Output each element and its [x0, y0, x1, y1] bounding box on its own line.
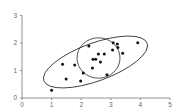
data-point — [82, 71, 85, 74]
x-tick-label: 2 — [79, 101, 83, 108]
data-point — [73, 64, 76, 67]
large-ellipse — [37, 25, 153, 98]
data-point — [105, 73, 108, 76]
data-point — [65, 78, 68, 81]
data-point — [87, 45, 90, 48]
x-tick-label: 5 — [168, 101, 172, 108]
x-tick-label: 3 — [109, 101, 113, 108]
data-points — [50, 41, 139, 92]
y-tick-label: 1 — [13, 67, 17, 74]
x-tick-label: 1 — [50, 101, 54, 108]
data-point — [79, 79, 82, 82]
scatter-chart: 012345 0123 — [0, 0, 190, 112]
x-tick-label: 4 — [139, 101, 143, 108]
y-tick-label: 3 — [13, 12, 17, 19]
data-point — [116, 43, 119, 46]
y-tick-label: 2 — [13, 39, 17, 46]
x-tick-label: 0 — [20, 101, 24, 108]
data-point — [92, 58, 95, 61]
x-axis-ticks: 012345 — [20, 98, 172, 108]
data-point — [99, 60, 102, 63]
data-point — [121, 52, 124, 55]
data-point — [112, 41, 115, 44]
data-point — [103, 53, 106, 56]
y-axis-ticks: 0123 — [13, 12, 22, 102]
data-point — [94, 58, 97, 61]
data-point — [61, 63, 64, 66]
y-tick-label: 0 — [13, 94, 17, 101]
data-point — [50, 89, 53, 92]
data-point — [111, 48, 114, 51]
ellipse-annotations — [37, 25, 153, 98]
data-point — [97, 53, 100, 56]
data-point — [116, 46, 119, 49]
data-point — [91, 67, 94, 70]
data-point — [136, 41, 139, 44]
